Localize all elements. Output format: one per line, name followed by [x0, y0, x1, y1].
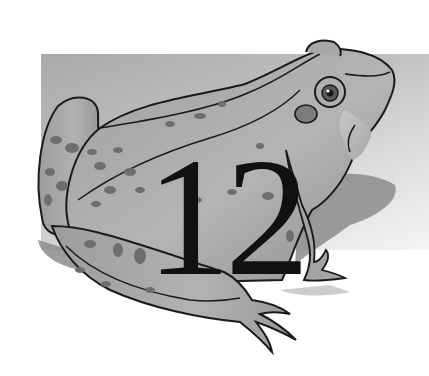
chapter-number: 12: [146, 132, 304, 302]
frog-eye: [315, 77, 345, 107]
chapter-opener-illustration: 12: [0, 0, 429, 376]
frog-tympanum: [295, 105, 317, 123]
